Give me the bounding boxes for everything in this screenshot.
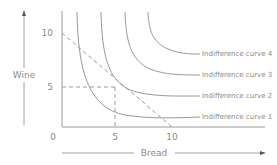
curve-label-3: Indifference curve 3 (202, 71, 272, 79)
indifference-curve-3 (125, 12, 200, 75)
y-tick-5: 5 (47, 82, 53, 92)
origin-label: 0 (50, 132, 56, 142)
y-tick-10: 10 (42, 28, 54, 38)
wine-axis-arrow (22, 10, 26, 125)
curve-label-4: Indifference curve 4 (202, 50, 273, 58)
x-tick-10: 10 (166, 132, 178, 142)
y-axis-title: Wine (13, 70, 36, 80)
indifference-curve-1 (77, 12, 200, 118)
indifference-curve-diagram: Wine Bread 10 5 0 5 10 Indifference curv… (0, 0, 277, 165)
curve-label-1: Indifference curve 1 (202, 113, 272, 121)
x-tick-5: 5 (112, 132, 118, 142)
indifference-curve-4 (148, 12, 200, 54)
plot-axes (62, 11, 265, 127)
x-axis-title: Bread (141, 148, 167, 158)
indifference-curve-2 (101, 12, 200, 96)
curve-label-2: Indifference curve 2 (202, 92, 272, 100)
optimum-guides (62, 87, 115, 127)
